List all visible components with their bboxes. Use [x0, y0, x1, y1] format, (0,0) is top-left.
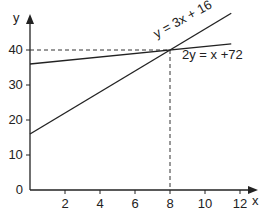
x-tick-label: 12 — [233, 196, 247, 211]
series-lines — [30, 13, 231, 134]
y-tick-label: 10 — [8, 147, 22, 162]
x-tick-label: 4 — [96, 196, 103, 211]
y-axis-arrow-icon — [26, 14, 34, 24]
intersection-guides — [30, 50, 170, 190]
x-axis-label: x — [252, 193, 259, 208]
x-tick-label: 2 — [61, 196, 68, 211]
y-tick-label: 30 — [8, 77, 22, 92]
y-axis-label: y — [13, 10, 20, 25]
line2-label: 2y = x +72 — [182, 47, 243, 62]
y-tick-label: 20 — [8, 112, 22, 127]
x-tick-label: 10 — [198, 196, 212, 211]
y-tick-label: 40 — [8, 42, 22, 57]
line-chart — [0, 0, 270, 212]
x-tick-label: 6 — [131, 196, 138, 211]
x-tick-label: 8 — [166, 196, 173, 211]
origin-label: 0 — [16, 182, 23, 197]
